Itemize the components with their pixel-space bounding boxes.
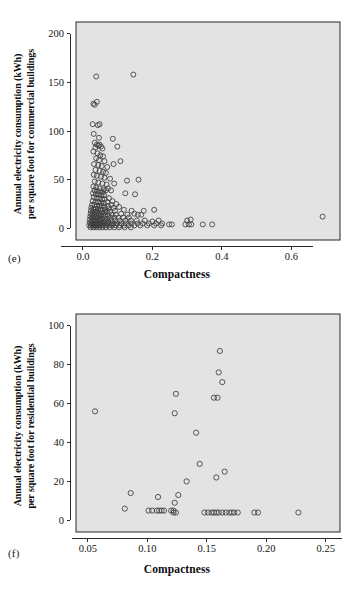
panel-e-x-axis-title: Compactness (0, 268, 354, 280)
panel-f-x-axis-title: Compactness (0, 563, 354, 575)
y-tick-label: 100 (48, 320, 64, 331)
figure-scatter-panels: Annual electricity consumption (kWh) per… (0, 0, 354, 590)
x-tick-label: 0.20 (257, 543, 275, 554)
y-tick-label: 100 (48, 126, 64, 137)
y-tick-label: 150 (48, 77, 64, 88)
x-tick-label: 0.4 (215, 251, 229, 262)
y-tick-label: 60 (54, 398, 65, 409)
panel-e-plot: 0501001502000.00.20.40.6 (0, 6, 354, 266)
panel-e-label: (e) (8, 252, 21, 264)
y-tick-label: 20 (54, 476, 65, 487)
y-tick-label: 0 (59, 515, 64, 526)
panel-f-plot: 0204060801000.050.100.150.200.25 (0, 296, 354, 558)
panel-e: Annual electricity consumption (kWh) per… (0, 6, 354, 295)
x-tick-label: 0.0 (76, 251, 89, 262)
y-tick-label: 40 (54, 437, 65, 448)
y-tick-label: 50 (54, 174, 65, 185)
plot-area-background (76, 314, 340, 532)
x-tick-label: 0.05 (79, 543, 97, 554)
y-tick-label: 200 (48, 28, 64, 39)
x-tick-label: 0.25 (317, 543, 335, 554)
x-tick-label: 0.15 (198, 543, 216, 554)
x-tick-label: 0.6 (285, 251, 298, 262)
y-tick-label: 0 (59, 223, 64, 234)
x-tick-label: 0.2 (146, 251, 159, 262)
x-tick-label: 0.10 (138, 543, 156, 554)
panel-f: Annual electricity consumption (kWh) per… (0, 296, 354, 590)
y-tick-label: 80 (54, 359, 65, 370)
panel-f-label: (f) (8, 547, 20, 559)
